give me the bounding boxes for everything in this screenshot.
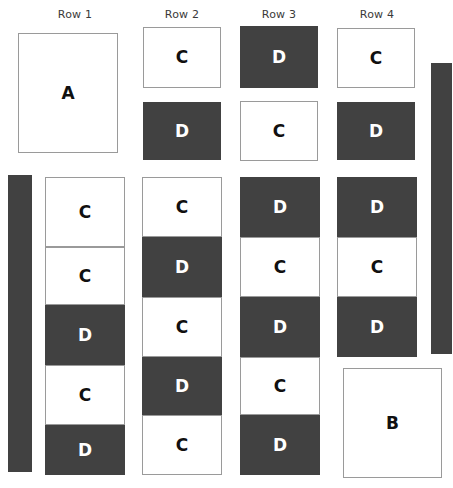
row-3-stack-cell-3: D <box>240 297 320 357</box>
row-3-stack-cell-5: D <box>240 415 320 475</box>
top-cell-c: C <box>337 28 415 88</box>
row-2-stack-cell-3: C <box>142 297 222 357</box>
column-header-4: Row 4 <box>360 8 394 21</box>
row-3-stack-cell-4: C <box>240 357 320 415</box>
top-cell-d: D <box>143 102 221 160</box>
row-1-stack-cell-2: C <box>45 247 125 305</box>
row-2-stack-cell-1: C <box>142 177 222 237</box>
column-header-2: Row 2 <box>165 8 199 21</box>
row-2-stack-cell-5: C <box>142 415 222 475</box>
row-4-stack-cell-3: D <box>337 297 417 357</box>
left-bar <box>8 175 32 472</box>
row-4-stack-cell-1: D <box>337 177 417 237</box>
top-cell-d: D <box>337 102 415 160</box>
big-box-b: B <box>343 368 442 478</box>
row-1-stack-cell-1: C <box>45 177 125 247</box>
row-1-stack-cell-5: D <box>45 425 125 475</box>
big-box-a: A <box>18 33 118 153</box>
top-cell-c: C <box>240 101 318 161</box>
row-1-stack-cell-3: D <box>45 305 125 365</box>
diagram-canvas: Row 1Row 2Row 3Row 4 AB CDDCCD CCDCDCDCD… <box>0 0 453 488</box>
row-3-stack-cell-2: C <box>240 237 320 297</box>
top-cell-d: D <box>240 26 318 88</box>
column-header-1: Row 1 <box>58 8 92 21</box>
row-2-stack-cell-4: D <box>142 357 222 415</box>
row-3-stack-cell-1: D <box>240 177 320 237</box>
row-2-stack-cell-2: D <box>142 237 222 297</box>
row-4-stack-cell-2: C <box>337 237 417 297</box>
top-cell-c: C <box>143 27 221 88</box>
row-1-stack-cell-4: C <box>45 365 125 425</box>
right-bar <box>431 63 452 354</box>
column-header-3: Row 3 <box>262 8 296 21</box>
